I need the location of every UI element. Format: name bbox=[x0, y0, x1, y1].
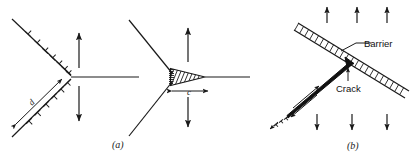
barrier-label: Barrier bbox=[364, 38, 393, 49]
panel-a-wedge-crack: c (a) bbox=[112, 20, 250, 151]
crack-length-label: c bbox=[187, 87, 191, 97]
dislocation-symbols-upper bbox=[25, 28, 74, 76]
crack-label: Crack bbox=[336, 83, 361, 94]
stress-arrows-bottom bbox=[317, 114, 387, 130]
stress-arrows-top bbox=[327, 7, 387, 23]
wedge-crack-shape bbox=[166, 64, 216, 88]
pileup-length-dimension-arrow bbox=[16, 79, 62, 124]
figure-svg: d bbox=[0, 0, 416, 161]
panel-b-caption: (b) bbox=[347, 140, 359, 152]
panel-a-caption: (a) bbox=[112, 139, 124, 151]
panel-b-barrier-crack: Barrier Crack (b) bbox=[270, 7, 409, 152]
pileup-length-label: d bbox=[26, 97, 37, 108]
wedge-open-end-ticks bbox=[169, 70, 174, 84]
wedge-slip-plane-lower bbox=[129, 82, 172, 136]
panel-a-pileup: d bbox=[12, 19, 139, 137]
figure-container: d bbox=[0, 0, 416, 161]
wedge-slip-plane-upper bbox=[129, 20, 172, 73]
